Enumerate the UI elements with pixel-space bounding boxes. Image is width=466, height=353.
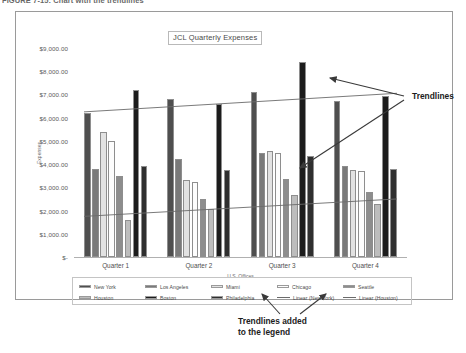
y-axis-tick-label: $8,000.00 [40,68,68,75]
annotation-legend-note-line1: Trendlines added [238,316,307,327]
bar[interactable] [390,169,397,257]
bar[interactable] [216,104,223,257]
y-axis-tick-label: $- [62,254,68,261]
legend-item[interactable]: Seattle [343,284,409,290]
legend-swatch-icon [211,285,223,288]
bar[interactable] [350,170,357,257]
x-axis-tick-label: Quarter 1 [102,262,129,269]
y-axis-tick-label: $4,000.00 [40,161,68,168]
legend-label: Linear (Houston) [359,295,398,301]
bar[interactable] [358,171,365,257]
bar-group: Quarter 4 [324,48,407,257]
legend-line-icon [343,297,356,298]
bar[interactable] [251,92,258,257]
bar[interactable] [84,113,91,257]
bar[interactable] [141,166,148,257]
bar[interactable] [299,62,306,257]
bar[interactable] [291,195,298,257]
annotation-legend-note: Trendlines added to the legend [238,316,307,337]
bar[interactable] [167,99,174,257]
bar[interactable] [133,90,140,257]
legend-swatch-icon [145,296,157,299]
bar[interactable] [108,141,115,257]
bar[interactable] [259,153,266,258]
x-axis-tick-label: Quarter 3 [269,262,296,269]
legend-swatch-icon [343,285,355,288]
legend-item[interactable]: Boston [145,295,211,301]
legend-item[interactable]: Los Angeles [145,284,211,290]
bar[interactable] [275,153,282,258]
bar[interactable] [192,182,199,257]
y-axis-tick-label: $2,000.00 [40,207,68,214]
legend-item[interactable]: Philadelphia [211,295,277,301]
legend-item[interactable]: Chicago [277,284,343,290]
legend-row: HoustonBostonPhiladelphiaLinear (New Yor… [79,292,409,303]
legend-swatch-icon [211,296,223,299]
legend-label: Chicago [292,284,311,290]
y-axis-tick-label: $6,000.00 [40,114,68,121]
legend-label: Miami [226,284,240,290]
bar[interactable] [334,101,341,257]
annotation-legend-note-line2: to the legend [238,327,307,338]
x-axis-tick-label: Quarter 4 [352,262,379,269]
bar[interactable] [283,179,290,257]
bar[interactable] [366,192,373,257]
bar[interactable] [92,169,99,257]
chart-legend[interactable]: New YorkLos AngelesMiamiChicagoSeattle H… [72,277,412,305]
legend-row: New YorkLos AngelesMiamiChicagoSeattle [79,281,409,292]
plot-area: Expenses $-$1,000.00$2,000.00$3,000.00$4… [74,48,407,257]
bar[interactable] [342,166,349,257]
bar[interactable] [125,220,132,257]
bar[interactable] [200,199,207,257]
y-axis-tick-label: $7,000.00 [40,91,68,98]
bar[interactable] [382,96,389,257]
legend-label: Seattle [358,284,374,290]
legend-item[interactable]: Linear (Houston) [343,295,409,301]
x-axis-line [74,257,407,258]
legend-swatch-icon [277,285,289,288]
y-axis-tick-label: $3,000.00 [40,184,68,191]
legend-swatch-icon [79,296,91,299]
y-axis-tick-label: $1,000.00 [40,230,68,237]
legend-item[interactable]: Miami [211,284,277,290]
bar[interactable] [307,156,314,257]
legend-label: Houston [94,295,113,301]
bar-group: Quarter 3 [241,48,324,257]
bar[interactable] [175,159,182,257]
legend-swatch-icon [79,285,91,288]
y-axis-tick-label: $9,000.00 [40,45,68,52]
bar[interactable] [224,170,231,257]
legend-label: Linear (New York) [293,295,334,301]
legend-label: New York [94,284,116,290]
bar[interactable] [267,151,274,257]
chart-container: JCL Quarterly Expenses Expenses $-$1,000… [15,11,453,300]
legend-line-icon [277,297,290,298]
bar[interactable] [100,132,107,257]
legend-label: Boston [160,295,176,301]
bar-group: Quarter 2 [157,48,240,257]
bar-group: Quarter 1 [74,48,157,257]
x-axis-tick-label: Quarter 2 [185,262,212,269]
figure-caption: FIGURE 7-15: Chart with the trendlines [2,0,144,5]
legend-swatch-icon [145,285,157,288]
bar[interactable] [116,176,123,257]
annotation-trendlines-label: Trendlines [412,91,454,101]
legend-label: Philadelphia [226,295,254,301]
bar[interactable] [208,209,215,257]
legend-item[interactable]: Houston [79,295,145,301]
y-axis-tick-label: $5,000.00 [40,137,68,144]
bar[interactable] [374,204,381,257]
chart-title: JCL Quarterly Expenses [168,31,262,45]
legend-label: Los Angeles [160,284,188,290]
bar[interactable] [183,180,190,257]
legend-item[interactable]: Linear (New York) [277,295,343,301]
legend-item[interactable]: New York [79,284,145,290]
